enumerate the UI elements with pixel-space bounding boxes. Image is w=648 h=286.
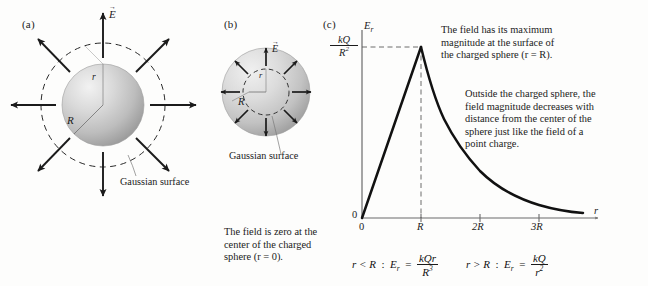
y-axis-peak-denominator-exp: 2 [345, 45, 349, 53]
annotation-exterior-line-3: sphere just like the field of a [465, 126, 645, 139]
panel-b-field-letter: E [272, 43, 278, 54]
exterior-equation-lhs-sub: r [511, 264, 514, 273]
annotation-exterior-line-2: distance from the center of the [465, 113, 645, 126]
panel-b-label: (b) [224, 18, 237, 30]
x-axis-tick-R: R [417, 221, 423, 232]
interior-equation-fraction: kQr R3 [417, 253, 438, 278]
annotation-exterior-line-1: field magnitude decreases with [465, 101, 645, 114]
panel-a-diagram [11, 13, 196, 196]
panel-b-radius-R-label: R [238, 96, 244, 107]
y-axis-peak-tick: kQ R2 [330, 34, 358, 58]
interior-equation-numerator: kQr [417, 253, 438, 264]
interior-equation-condition: r < R [352, 258, 376, 270]
exterior-equation-denominator: r2 [531, 264, 548, 278]
interior-equation-denominator-exp: 3 [429, 264, 433, 273]
annotation-center-note: The field is zero at the center of the c… [224, 226, 344, 264]
y-axis-label: Er [364, 20, 373, 34]
panel-a-field-vector-label: → E [109, 6, 116, 20]
annotation-exterior-line-0: Outside the charged sphere, the [465, 88, 645, 101]
exterior-equation-numerator: kQ [531, 253, 548, 264]
interior-equation-denominator-base: R [422, 266, 429, 278]
panel-a-radius-r-label: r [92, 72, 96, 82]
x-axis-tick-3R: 3R [531, 221, 543, 232]
panel-b-field-vector-label: → E [272, 41, 279, 54]
interior-equation-denominator: R3 [417, 264, 438, 278]
y-axis-label-subscript: r [370, 25, 373, 34]
interior-equation: r < R : Er = kQr R3 [352, 253, 438, 278]
panel-b-radius-r-label: r [259, 70, 262, 80]
exterior-equation-denominator-exp: 2 [540, 264, 544, 273]
y-axis-origin-tick: 0 [352, 209, 357, 220]
y-axis-peak-denominator: R2 [330, 45, 358, 58]
panel-b-gaussian-surface-label: Gaussian surface [229, 150, 298, 161]
annotation-exterior-line-4: point charge. [465, 138, 645, 151]
annotation-peak-note: The field has its maximum magnitude at t… [441, 24, 641, 62]
panel-a-gaussian-surface-label: Gaussian surface [120, 176, 189, 187]
panel-a-field-letter: E [109, 8, 116, 20]
exterior-equation-fraction: kQ r2 [531, 253, 548, 278]
x-axis-label: r [594, 205, 598, 216]
panel-c-label: (c) [323, 18, 336, 30]
annotation-center-line-0: The field is zero at the [224, 226, 344, 239]
annotation-center-line-2: sphere (r = 0). [224, 251, 344, 264]
x-axis-tick-0: 0 [359, 221, 364, 232]
interior-equation-lhs-sub: r [397, 264, 400, 273]
exterior-equation-condition: r > R [466, 258, 490, 270]
annotation-center-line-1: center of the charged [224, 239, 344, 252]
exterior-equation-lhs: E [504, 258, 511, 270]
annotation-exterior-note: Outside the charged sphere, the field ma… [465, 88, 645, 151]
interior-equation-lhs: E [390, 258, 397, 270]
y-axis-peak-numerator: kQ [330, 34, 358, 45]
x-axis-tick-2R: 2R [472, 221, 484, 232]
annotation-peak-line-1: magnitude at the surface of [441, 37, 641, 50]
annotation-peak-line-2: the charged sphere (r = R). [441, 49, 641, 62]
panel-a-radius-R-label: R [67, 114, 74, 126]
exterior-equation: r > R : Er = kQ r2 [466, 253, 548, 278]
annotation-peak-line-0: The field has its maximum [441, 24, 641, 37]
panel-b-diagram [221, 48, 311, 154]
